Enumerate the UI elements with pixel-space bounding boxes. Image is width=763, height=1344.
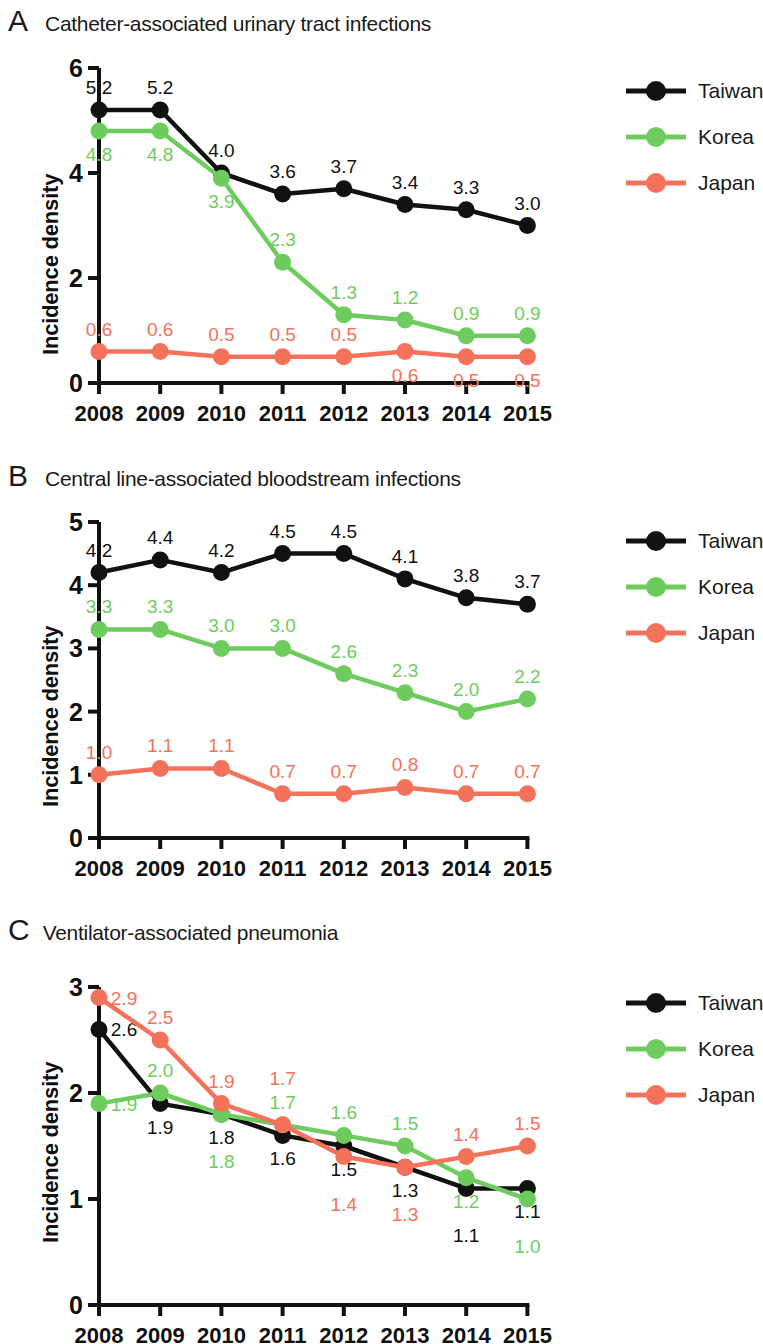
- y-tick-label: 0: [69, 1291, 83, 1319]
- legend-marker-korea-icon: [620, 114, 692, 160]
- data-point: [519, 1191, 536, 1208]
- x-tick-label: 2011: [259, 401, 307, 426]
- data-point: [213, 564, 230, 581]
- x-tick-label: 2008: [75, 856, 124, 881]
- x-tick-label: 2011: [259, 1323, 307, 1344]
- x-tick-label: 2015: [503, 1323, 552, 1344]
- data-label: 3.4: [392, 172, 419, 193]
- x-tick-label: 2008: [75, 1323, 124, 1344]
- legend-item-korea: Korea: [620, 564, 692, 610]
- data-point: [274, 640, 291, 657]
- x-tick-label: 2009: [136, 856, 185, 881]
- data-label: 4.5: [331, 521, 357, 542]
- data-point: [335, 1127, 352, 1144]
- data-point: [335, 306, 352, 323]
- data-label: 0.8: [392, 754, 418, 775]
- data-point: [397, 684, 414, 701]
- data-label: 1.8: [208, 1151, 234, 1172]
- legend-item-japan: Japan: [620, 1072, 692, 1118]
- y-tick-label: 1: [69, 1185, 83, 1213]
- data-point: [274, 348, 291, 365]
- y-tick-label: 4: [69, 571, 83, 599]
- data-point: [91, 123, 108, 140]
- panel-c-legend: Taiwan Korea Japan: [620, 980, 692, 1118]
- data-point: [519, 327, 536, 344]
- data-label: 5.2: [86, 77, 112, 98]
- data-point: [397, 196, 414, 213]
- data-label: 3.9: [208, 191, 234, 212]
- legend-marker-taiwan-icon: [620, 68, 692, 114]
- data-label: 3.3: [453, 177, 479, 198]
- data-point: [152, 102, 169, 119]
- data-point: [519, 596, 536, 613]
- legend-item-taiwan: Taiwan: [620, 980, 692, 1026]
- data-point: [91, 564, 108, 581]
- legend-marker-korea-icon: [620, 1026, 692, 1072]
- legend-item-taiwan: Taiwan: [620, 518, 692, 564]
- data-point: [213, 760, 230, 777]
- x-tick-label: 2008: [75, 401, 124, 426]
- data-point: [335, 1148, 352, 1165]
- data-point: [152, 343, 169, 360]
- x-tick-label: 2009: [136, 401, 185, 426]
- x-tick-label: 2010: [197, 401, 246, 426]
- data-label: 2.2: [514, 666, 540, 687]
- data-label: 1.6: [269, 1148, 295, 1169]
- data-point: [519, 217, 536, 234]
- legend-label-japan: Japan: [698, 171, 755, 195]
- data-point: [335, 785, 352, 802]
- data-point: [213, 640, 230, 657]
- x-tick-label: 2014: [442, 1323, 492, 1344]
- data-label: 1.2: [453, 1191, 479, 1212]
- y-tick-label: 2: [69, 698, 83, 726]
- data-label: 1.8: [208, 1127, 234, 1148]
- data-point: [152, 1085, 169, 1102]
- legend-item-korea: Korea: [620, 114, 692, 160]
- data-label: 4.8: [86, 144, 112, 165]
- data-label: 1.3: [392, 1204, 418, 1225]
- panel-b-legend: Taiwan Korea Japan: [620, 518, 692, 656]
- data-label: 0.6: [147, 319, 173, 340]
- data-point: [213, 348, 230, 365]
- y-tick-label: 4: [69, 159, 83, 187]
- data-point: [397, 779, 414, 796]
- legend-label-taiwan: Taiwan: [698, 79, 763, 103]
- data-point: [335, 665, 352, 682]
- x-tick-label: 2010: [197, 1323, 246, 1344]
- y-tick-label: 5: [69, 508, 83, 536]
- x-tick-label: 2011: [259, 856, 307, 881]
- data-point: [152, 123, 169, 140]
- panel-a: A Catheter-associated urinary tract infe…: [0, 0, 751, 455]
- x-tick-label: 2013: [381, 401, 430, 426]
- data-point: [458, 703, 475, 720]
- data-point: [519, 1138, 536, 1155]
- data-label: 2.6: [331, 641, 357, 662]
- data-label: 1.5: [514, 1113, 540, 1134]
- data-point: [274, 1116, 291, 1133]
- data-point: [91, 621, 108, 638]
- data-label: 3.7: [331, 156, 357, 177]
- data-label: 0.5: [208, 324, 234, 345]
- data-label: 2.9: [111, 988, 137, 1009]
- data-label: 1.1: [453, 1225, 479, 1246]
- data-label: 0.7: [331, 761, 357, 782]
- data-label: 3.8: [453, 565, 479, 586]
- data-label: 1.3: [331, 282, 357, 303]
- data-point: [335, 348, 352, 365]
- data-label: 1.1: [208, 735, 234, 756]
- data-label: 3.7: [514, 571, 540, 592]
- data-point: [458, 1169, 475, 1186]
- data-point: [91, 102, 108, 119]
- data-point: [91, 989, 108, 1006]
- data-point: [458, 327, 475, 344]
- data-point: [397, 1138, 414, 1155]
- data-point: [519, 785, 536, 802]
- data-point: [458, 348, 475, 365]
- y-tick-label: 2: [69, 264, 83, 292]
- data-label: 1.4: [453, 1124, 480, 1145]
- y-tick-label: 0: [69, 369, 83, 397]
- data-label: 2.0: [147, 1060, 173, 1081]
- data-label: 2.0: [453, 679, 479, 700]
- data-label: 1.1: [147, 735, 173, 756]
- data-point: [274, 254, 291, 271]
